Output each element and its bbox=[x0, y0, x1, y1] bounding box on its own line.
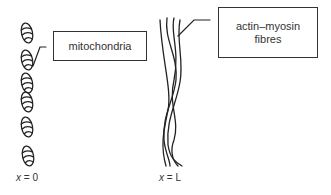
axis-label-x0: x = 0 bbox=[16, 172, 38, 183]
mitochondria-label-box: mitochondria bbox=[53, 31, 147, 61]
fibre-bundle bbox=[160, 18, 210, 166]
mitochondria-label: mitochondria bbox=[69, 40, 132, 53]
mitochondrion-icon bbox=[20, 91, 35, 113]
mitochondrion-icon bbox=[20, 49, 35, 71]
fibres-leader-line bbox=[178, 20, 210, 36]
mitochondrion-icon bbox=[20, 72, 35, 94]
mitochondrion-icon bbox=[20, 22, 35, 44]
mitochondria-column bbox=[20, 22, 46, 167]
fibres-label-box: actin–myosin fibres bbox=[218, 7, 318, 58]
mitochondria-leader-line bbox=[33, 47, 46, 66]
fibres-label-line1: actin–myosin bbox=[236, 20, 300, 33]
fibres-label-line2: fibres bbox=[255, 33, 282, 46]
axis-label-xL: x = L bbox=[159, 172, 181, 183]
mitochondrion-icon bbox=[20, 116, 35, 138]
mitochondrion-icon bbox=[21, 145, 36, 167]
